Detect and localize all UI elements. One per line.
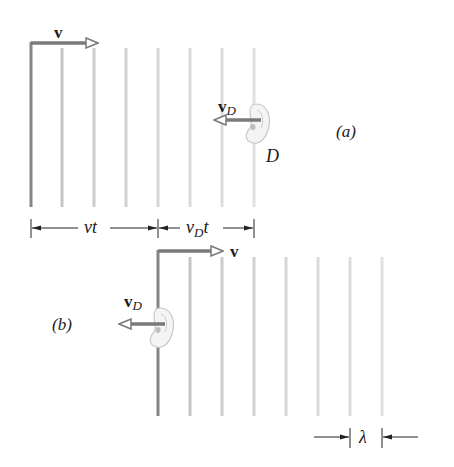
detector-label: D (265, 146, 279, 166)
source-velocity-label-b: v (230, 242, 239, 261)
doppler-diagram: v vD D (a) vt vDt (0, 0, 454, 467)
source-velocity-label-a: v (54, 23, 63, 42)
panel-a: v vD D (a) vt vDt (31, 23, 356, 240)
wavefronts-b (158, 250, 382, 416)
wavelength-label: λ (358, 427, 367, 447)
detector-velocity-label-b: vD (124, 292, 143, 313)
dimension-vt-label: vt (84, 217, 98, 237)
dimension-vdt-label: vDt (186, 217, 209, 240)
ear-icon (246, 104, 269, 143)
panel-a-label: (a) (336, 122, 356, 141)
dimension-lines (31, 219, 254, 238)
panel-b: v vD (b) λ (52, 242, 418, 448)
ear-icon (150, 308, 173, 347)
panel-b-label: (b) (52, 315, 72, 334)
detector-velocity-label-a: vD (218, 97, 237, 118)
wavefronts-a (31, 42, 254, 207)
